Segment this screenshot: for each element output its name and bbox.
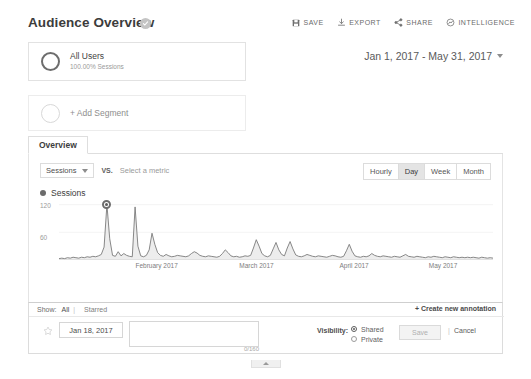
annotations-header: Show: All | Starred + Create new annotat… (29, 303, 504, 317)
segment-detail: 100.00% Sessions (70, 63, 124, 72)
chevron-down-icon (497, 54, 503, 58)
chart-panel: Sessions VS. Select a metric Hourly Day … (28, 154, 503, 305)
tab-overview-label: Overview (39, 140, 77, 150)
download-icon (337, 18, 346, 27)
segment-ring-icon (41, 52, 60, 71)
share-button[interactable]: SHARE (394, 18, 433, 27)
granularity-day[interactable]: Day (399, 164, 425, 179)
panel-collapse-handle[interactable] (251, 360, 281, 368)
tab-overview[interactable]: Overview (28, 136, 88, 154)
save-button-label: SAVE (303, 19, 323, 26)
visibility-option-shared[interactable]: Shared (351, 324, 384, 334)
export-button[interactable]: EXPORT (337, 18, 381, 27)
share-button-label: SHARE (406, 19, 433, 26)
check-badge-icon (140, 18, 151, 29)
legend-dot-icon (40, 190, 46, 196)
analytics-page: Audience Overview SAVE EXPORT S (0, 0, 531, 379)
x-tick-april: April 2017 (339, 262, 368, 269)
visibility-label: Visibility: (317, 327, 348, 334)
radio-private-icon (351, 336, 357, 342)
select-metric-link[interactable]: Select a metric (120, 166, 170, 175)
intelligence-button[interactable]: INTELLIGENCE (446, 18, 515, 27)
granularity-group: Hourly Day Week Month (363, 163, 491, 180)
add-segment-ring-icon (41, 104, 60, 123)
segment-name: All Users (70, 51, 124, 62)
chevron-down-icon (82, 169, 88, 173)
annotation-cancel-link[interactable]: Cancel (454, 327, 476, 334)
annotation-editor-row: Jan 18, 2017 0/160 Visibility: Shared Pr… (29, 317, 504, 355)
cancel-separator: | (448, 327, 450, 334)
x-tick-march: March 2017 (239, 262, 273, 269)
chart-legend: Sessions (40, 188, 86, 198)
export-button-label: EXPORT (349, 19, 381, 26)
floppy-disk-icon (292, 19, 300, 27)
date-range-picker[interactable]: Jan 1, 2017 - May 31, 2017 (364, 50, 503, 62)
legend-label-sessions: Sessions (51, 188, 86, 198)
date-range-label: Jan 1, 2017 - May 31, 2017 (364, 50, 492, 62)
granularity-month[interactable]: Month (457, 164, 490, 179)
intelligence-icon (446, 18, 455, 27)
y-tick-60: 60 (40, 234, 47, 241)
star-icon[interactable] (43, 326, 53, 336)
create-annotation-link[interactable]: + Create new annotation (415, 305, 496, 312)
save-button[interactable]: SAVE (292, 19, 324, 27)
chevron-up-icon (263, 362, 269, 365)
metric-select-value: Sessions (46, 166, 76, 175)
tab-strip: Overview (28, 136, 503, 154)
annotation-note-input[interactable] (129, 321, 259, 347)
metric-controls: Sessions VS. Select a metric (40, 163, 169, 178)
metric-select[interactable]: Sessions (40, 163, 94, 178)
granularity-hourly[interactable]: Hourly (364, 164, 399, 179)
add-segment-button[interactable]: + Add Segment (28, 95, 246, 131)
sessions-area-chart[interactable] (59, 200, 493, 260)
x-tick-may: May 2017 (429, 262, 458, 269)
show-label: Show: (37, 306, 56, 313)
show-separator: | (73, 306, 75, 313)
visibility-shared-label: Shared (361, 326, 384, 333)
show-starred-link[interactable]: Starred (84, 306, 107, 313)
vs-label: VS. (101, 167, 112, 174)
annotations-panel: Show: All | Starred + Create new annotat… (28, 302, 503, 354)
granularity-week[interactable]: Week (425, 164, 457, 179)
radio-shared-icon (351, 326, 357, 332)
segment-area: All Users 100.00% Sessions + Add Segment… (28, 42, 503, 131)
show-all-link[interactable]: All (61, 306, 69, 313)
intelligence-button-label: INTELLIGENCE (458, 19, 515, 26)
page-title: Audience Overview (28, 15, 154, 30)
visibility-private-label: Private (361, 336, 383, 343)
x-axis: February 2017 March 2017 April 2017 May … (59, 262, 493, 274)
visibility-option-private[interactable]: Private (351, 334, 384, 344)
annotation-date-input[interactable]: Jan 18, 2017 (59, 322, 123, 338)
add-segment-label: + Add Segment (70, 108, 128, 118)
segment-all-users[interactable]: All Users 100.00% Sessions (28, 42, 246, 81)
character-counter: 0/160 (244, 346, 259, 352)
visibility-radio-group: Shared Private (351, 324, 384, 344)
x-tick-february: February 2017 (136, 262, 178, 269)
y-tick-120: 120 (40, 202, 51, 209)
annotation-save-button[interactable]: Save (399, 325, 441, 340)
page-header: Audience Overview SAVE EXPORT S (0, 0, 531, 38)
share-icon (394, 18, 403, 27)
report-toolbar: SAVE EXPORT SHARE INTELLIGENCE (292, 18, 515, 27)
